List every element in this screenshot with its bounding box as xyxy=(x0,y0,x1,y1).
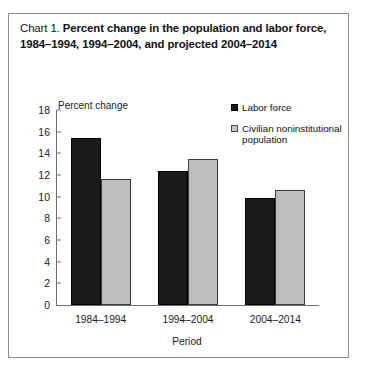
y-axis-tick-label: 8 xyxy=(44,212,57,224)
bar-labor-force xyxy=(71,138,101,305)
bar-civilian-population xyxy=(101,179,131,305)
chart-figure: Chart 1. Percent change in the populatio… xyxy=(8,13,349,358)
bar-group xyxy=(158,110,218,305)
x-axis-tick-label: 1994–2004 xyxy=(163,314,214,325)
y-axis-tick-label: 14 xyxy=(38,147,57,159)
y-axis-tick-label: 4 xyxy=(44,256,57,268)
y-axis-tick-label: 10 xyxy=(38,191,57,203)
y-axis-tick-label: 0 xyxy=(44,299,57,311)
bar-civilian-population xyxy=(188,159,218,305)
y-axis-tick-mark xyxy=(57,153,61,154)
y-axis-tick-mark xyxy=(57,110,61,111)
y-axis-tick-label: 12 xyxy=(38,169,57,181)
y-axis-tick-mark xyxy=(57,261,61,262)
y-axis-tick-label: 2 xyxy=(44,277,57,289)
y-axis-tick-label: 18 xyxy=(38,104,57,116)
x-axis-tick-label: 2004–2014 xyxy=(250,314,301,325)
y-axis-tick-mark xyxy=(57,283,61,284)
bar-group xyxy=(245,110,305,305)
bar-civilian-population xyxy=(275,190,305,305)
bar-labor-force xyxy=(158,171,188,305)
bar-labor-force xyxy=(245,198,275,305)
x-axis-tick-label: 1984–1994 xyxy=(75,314,126,325)
y-axis-tick-mark xyxy=(57,240,61,241)
y-axis-tick-label: 16 xyxy=(38,126,57,138)
chart-title-text: Percent change in the population and lab… xyxy=(20,22,326,50)
y-axis-tick-mark xyxy=(57,175,61,176)
y-axis-tick-mark xyxy=(57,131,61,132)
y-axis-tick-mark xyxy=(57,196,61,197)
y-axis-tick-mark xyxy=(57,218,61,219)
y-axis-tick-label: 6 xyxy=(44,234,57,246)
chart-number-label: Chart 1. xyxy=(20,22,60,34)
chart-title: Chart 1. Percent change in the populatio… xyxy=(20,21,335,52)
x-axis-title: Period xyxy=(56,336,318,347)
plot-area: 0246810121416181984–19941994–20042004–20… xyxy=(56,110,319,306)
bar-group xyxy=(71,110,131,305)
